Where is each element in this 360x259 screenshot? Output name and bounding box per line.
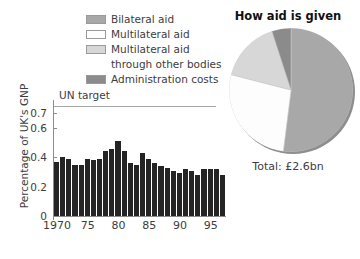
legend-item-bilateral-aid: Bilateral aid bbox=[86, 12, 226, 27]
y-tick-mark bbox=[53, 216, 57, 217]
pie-total-label: Total: £2.6bn bbox=[216, 160, 360, 173]
x-tick-label: 80 bbox=[112, 219, 126, 232]
bar-chart: Percentage of UK's GNP UN target 00.20.4… bbox=[0, 88, 230, 259]
legend-label-multilateral-aid: Multilateral aid bbox=[111, 27, 190, 42]
y-tick-label: 0.6 bbox=[0, 122, 53, 134]
y-axis-title: Percentage of UK's GNP bbox=[18, 76, 30, 216]
legend-swatch-bilateral-aid bbox=[86, 15, 106, 24]
legend-item-multilateral-aid-other-bodies-line2: through other bodies bbox=[86, 57, 226, 72]
legend-item-multilateral-aid: Multilateral aid bbox=[86, 27, 226, 42]
legend-label-bilateral-aid: Bilateral aid bbox=[111, 12, 174, 27]
pie-slice bbox=[283, 28, 353, 152]
x-axis-line bbox=[53, 216, 226, 217]
legend-label-administration-costs: Administration costs bbox=[111, 72, 218, 87]
pie-body bbox=[229, 28, 353, 152]
legend-swatch-administration-costs bbox=[86, 75, 106, 84]
un-target-label: UN target bbox=[59, 89, 110, 101]
infographic-root: Bilateral aid Multilateral aid Multilate… bbox=[0, 0, 360, 259]
legend-swatch-multilateral-aid bbox=[86, 30, 106, 39]
legend-swatch-spacer bbox=[86, 60, 106, 69]
y-tick-label: 0.4 bbox=[0, 151, 53, 163]
y-tick-label: 0.2 bbox=[0, 181, 53, 193]
legend: Bilateral aid Multilateral aid Multilate… bbox=[86, 12, 226, 87]
pie-svg bbox=[229, 28, 353, 152]
bar-series bbox=[54, 106, 226, 216]
pie-chart-title: How aid is given bbox=[216, 9, 360, 23]
legend-swatch-multilateral-aid-other-bodies bbox=[86, 45, 106, 54]
x-tick-label: 95 bbox=[204, 219, 218, 232]
x-tick-label: 75 bbox=[81, 219, 95, 232]
legend-label-multilateral-aid-other-bodies-line2: through other bodies bbox=[111, 57, 222, 72]
x-tick-label: 1970 bbox=[43, 219, 71, 232]
legend-item-administration-costs: Administration costs bbox=[86, 72, 226, 87]
y-tick-label: 0.7 bbox=[0, 107, 53, 119]
x-tick-label: 85 bbox=[142, 219, 156, 232]
legend-item-multilateral-aid-other-bodies: Multilateral aid bbox=[86, 42, 226, 57]
pie-chart: How aid is given Total: £2.6bn bbox=[216, 4, 360, 194]
legend-label-multilateral-aid-other-bodies: Multilateral aid bbox=[111, 42, 190, 57]
x-tick-label: 90 bbox=[173, 219, 187, 232]
